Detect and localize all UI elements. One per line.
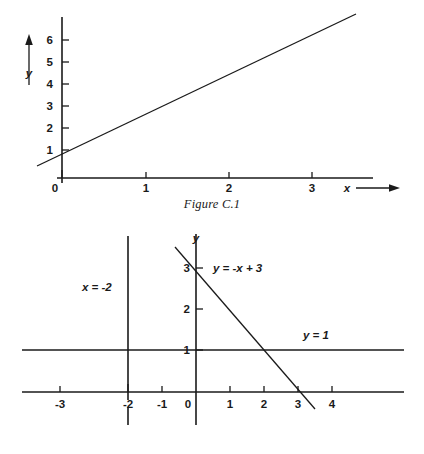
x-tick-label-2: 2	[261, 398, 267, 410]
y-tick-label-5: 5	[47, 56, 54, 68]
y-axis-label: y	[25, 67, 33, 79]
y-tick-label-2: 2	[184, 303, 190, 315]
y-tick-label-4: 4	[47, 78, 54, 90]
figure-c1-plot: 1 2 3 4 5 6 0 1 2 3 y x	[0, 0, 424, 200]
y-tick-label-3: 3	[184, 262, 190, 274]
y-tick-label-1: 1	[47, 144, 54, 156]
y-axis-arrow-head	[25, 34, 33, 45]
y-tick-label-6: 6	[47, 34, 53, 46]
figure-c1-caption: Figure C.1	[0, 197, 424, 212]
x-tick-label-1: 1	[227, 398, 234, 410]
annotation-vertical-line: x = -2	[81, 281, 112, 293]
figure-c2-plot: 1 2 3 -3 -2 -1 0 1 2 3 4 y y = -x + 3 x …	[0, 222, 424, 430]
y-tick-label-2: 2	[47, 122, 53, 134]
figure-c1: 1 2 3 4 5 6 0 1 2 3 y x	[0, 0, 424, 222]
x-tick-label-3: 3	[309, 182, 315, 194]
line-series-y-equals-2x-plus-1	[37, 14, 356, 166]
x-tick-label-minus-3: -3	[55, 398, 65, 410]
x-tick-label-1: 1	[143, 182, 150, 194]
origin-label: 0	[52, 182, 58, 194]
x-axis-label: x	[343, 182, 351, 194]
annotation-horizontal-line: y = 1	[302, 329, 329, 341]
annotation-slant-line: y = -x + 3	[212, 262, 263, 274]
x-tick-label-4: 4	[329, 398, 336, 410]
y-tick-label-3: 3	[47, 100, 53, 112]
figure-c2: 1 2 3 -3 -2 -1 0 1 2 3 4 y y = -x + 3 x …	[0, 222, 424, 454]
y-tick-label-1: 1	[184, 344, 191, 356]
x-tick-label-0: 0	[185, 398, 191, 410]
x-axis-arrow-head	[389, 184, 400, 192]
figure-page: 1 2 3 4 5 6 0 1 2 3 y x	[0, 0, 424, 454]
y-axis-label: y	[192, 232, 200, 244]
x-tick-label-3: 3	[295, 398, 301, 410]
x-tick-label-minus-2: -2	[123, 398, 133, 410]
x-tick-label-2: 2	[226, 182, 232, 194]
x-tick-label-minus-1: -1	[157, 398, 168, 410]
